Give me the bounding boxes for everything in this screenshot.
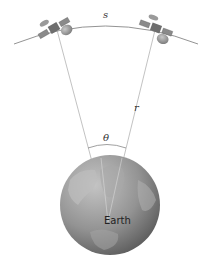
arc-label-s: s <box>103 9 108 20</box>
earth-label: Earth <box>104 215 131 226</box>
diagram-canvas: s r θ Earth <box>0 0 212 257</box>
radius-label-r: r <box>134 102 140 113</box>
satellite-left <box>34 10 76 48</box>
angle-arc <box>88 145 126 149</box>
earth <box>60 155 160 255</box>
angle-label-theta: θ <box>103 132 109 143</box>
